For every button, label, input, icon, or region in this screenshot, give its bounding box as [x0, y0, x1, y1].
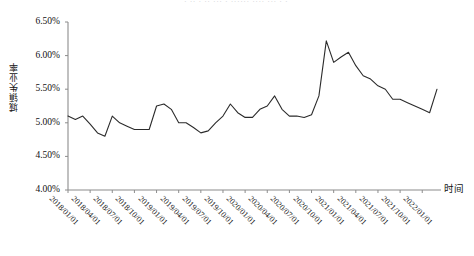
line-chart-plot [0, 0, 474, 256]
chart-container: · ·· · ·· ··· · ······ ···· ··· · · 城镇失业… [0, 0, 474, 256]
chart-axes [65, 22, 441, 193]
unemployment-rate-line [68, 41, 437, 136]
